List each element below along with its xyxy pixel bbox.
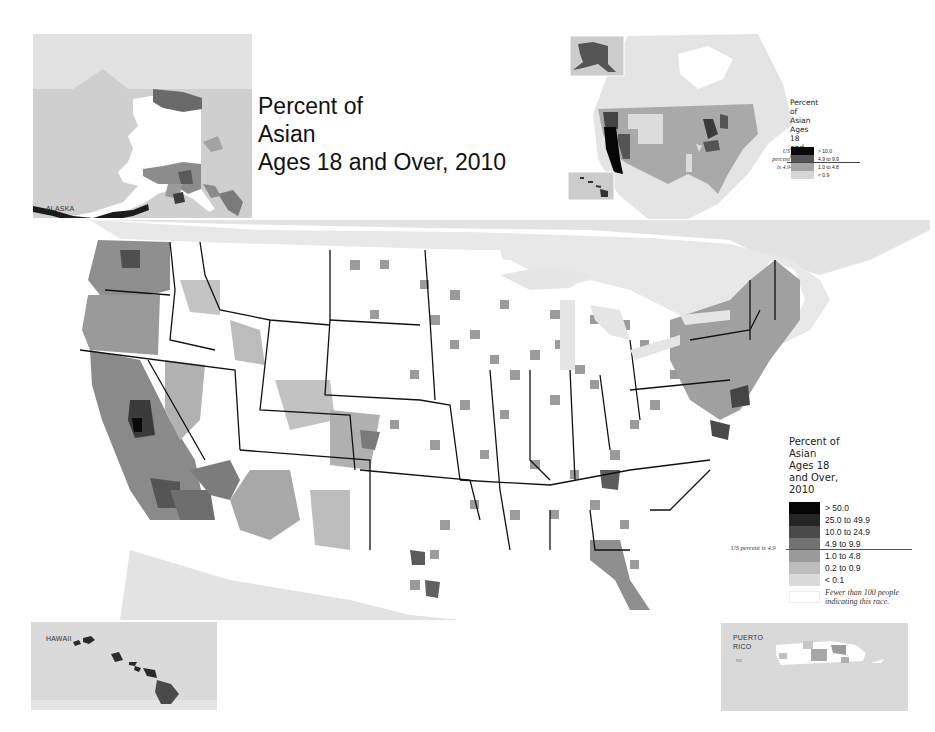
county-legend-label: > 50.0 — [825, 503, 849, 513]
county-legend-title: Percent of Asian Ages 18 and Over, 2010 — [789, 436, 839, 496]
county-legend-label: 4.9 to 9.9 — [825, 539, 860, 549]
state-legend-swatch — [791, 163, 814, 171]
county-legend-title-line: Percent of — [789, 436, 839, 448]
county-legend-class-6: 0.2 to 0.9 — [789, 562, 860, 574]
county-legend-swatch — [789, 502, 820, 514]
no-data-line-1: Fewer than 100 people — [825, 588, 899, 597]
puerto-rico-label-line-2: RICO — [733, 642, 763, 651]
county-legend-label: < 0.1 — [825, 575, 844, 585]
puerto-rico-label: PUERTO RICO — [733, 633, 763, 651]
county-legend-title-line: and Over, — [789, 472, 839, 484]
title-line-3: Ages 18 and Over, 2010 — [258, 148, 506, 176]
county-legend-us-line — [786, 549, 912, 550]
state-legend-swatch — [791, 171, 814, 179]
county-legend-title-line: 2010 — [789, 484, 839, 496]
state-legend-class-4: < 0.9 — [791, 171, 829, 179]
county-legend-label: 10.0 to 24.9 — [825, 527, 870, 537]
county-legend-class-1: > 50.0 — [789, 502, 849, 514]
state-legend-swatch — [791, 147, 814, 155]
state-level-map-panel: Percent of Asian Ages 18 and Over, 2010 — [568, 34, 808, 219]
state-legend-label: > 10.0 — [818, 148, 832, 154]
county-legend-swatch-no-data — [789, 591, 820, 603]
alaska-label: ALASKA — [46, 204, 74, 213]
alaska-inset: ALASKA — [33, 34, 252, 218]
puerto-rico-inset: PUERTO RICO — [721, 623, 908, 711]
county-legend-class-3: 10.0 to 24.9 — [789, 526, 870, 538]
no-data-line-2: indicating this race. — [825, 597, 899, 606]
county-legend-us-note: US percent is 4.9 — [731, 544, 776, 551]
puerto-rico-label-line-1: PUERTO — [733, 633, 763, 642]
county-legend-no-data: Fewer than 100 people indicating this ra… — [789, 588, 899, 606]
title-line-1: Percent of — [258, 92, 506, 120]
state-legend-title-line: Ages 18 — [790, 125, 818, 143]
state-legend-title-line: Asian — [790, 116, 818, 125]
state-legend-us-line — [787, 162, 860, 163]
us-note-line: percent — [760, 155, 790, 163]
us-note-line: US — [760, 147, 790, 155]
county-legend-title-line: Asian — [789, 448, 839, 460]
main-title: Percent of Asian Ages 18 and Over, 2010 — [258, 92, 506, 176]
county-legend-label: 0.2 to 0.9 — [825, 563, 860, 573]
county-legend-swatch — [789, 514, 820, 526]
county-legend-title-line: Ages 18 — [789, 460, 839, 472]
state-level-map — [568, 34, 808, 219]
state-legend-class-1: > 10.0 — [791, 147, 832, 155]
hawaii-label: HAWAII — [46, 634, 72, 643]
county-legend-swatch — [789, 562, 820, 574]
state-legend-title-line: Percent of — [790, 98, 818, 116]
state-legend-label: < 0.9 — [818, 172, 829, 178]
state-legend-class-3: 1.0 to 4.8 — [791, 163, 839, 171]
title-line-2: Asian — [258, 120, 506, 148]
county-legend-class-2: 25.0 to 49.9 — [789, 514, 870, 526]
alaska-map — [33, 34, 252, 218]
us-note-line: is 4.9 — [760, 163, 790, 171]
county-legend-no-data-label: Fewer than 100 people indicating this ra… — [825, 588, 899, 606]
state-legend-us-note: US percent is 4.9 — [760, 147, 790, 171]
county-legend-swatch — [789, 550, 820, 562]
hawaii-inset: HAWAII — [31, 622, 217, 710]
county-legend-label: 25.0 to 49.9 — [825, 515, 870, 525]
county-legend-swatch — [789, 526, 820, 538]
county-legend-label: 1.0 to 4.8 — [825, 551, 860, 561]
county-legend-swatch — [789, 574, 820, 586]
state-legend-label: 1.0 to 4.8 — [818, 164, 839, 170]
county-legend-class-5: 1.0 to 4.8 — [789, 550, 860, 562]
county-legend-class-7: < 0.1 — [789, 574, 844, 586]
